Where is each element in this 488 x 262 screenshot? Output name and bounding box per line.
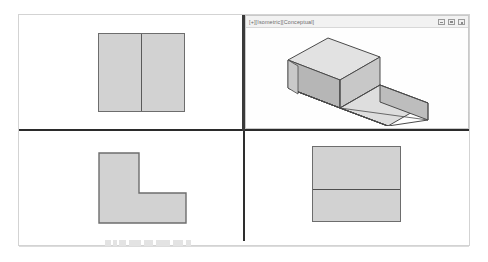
cad-application-window: [+][Isometric][Conceptual] [0, 0, 488, 262]
side-view-l-profile [98, 152, 187, 224]
minimize-icon[interactable] [438, 19, 445, 25]
viewport-top-view[interactable] [245, 132, 469, 241]
l-profile-outline [99, 153, 186, 223]
viewport-label[interactable]: [+][Isometric][Conceptual] [249, 16, 314, 28]
isometric-viewport-panel: [+][Isometric][Conceptual] [245, 15, 469, 129]
top-view-rectangle [312, 146, 401, 222]
front-view-split-line [141, 34, 142, 111]
viewport-front-view[interactable] [19, 15, 242, 129]
viewport-side-view[interactable] [19, 132, 243, 241]
top-view-split-line [313, 189, 400, 190]
viewport-divider-vertical-bottom[interactable] [243, 131, 245, 241]
status-bar-underline [19, 246, 469, 247]
viewport-divider-vertical-top[interactable] [242, 15, 245, 131]
isometric-viewport-titlebar: [+][Isometric][Conceptual] [246, 16, 468, 28]
viewport-isometric[interactable]: [+][Isometric][Conceptual] [245, 15, 469, 129]
isometric-stepped-block [280, 30, 440, 126]
iso-face-wall-thickness [288, 60, 298, 94]
close-icon[interactable] [458, 19, 465, 25]
window-controls [438, 19, 465, 25]
maximize-icon[interactable] [448, 19, 455, 25]
